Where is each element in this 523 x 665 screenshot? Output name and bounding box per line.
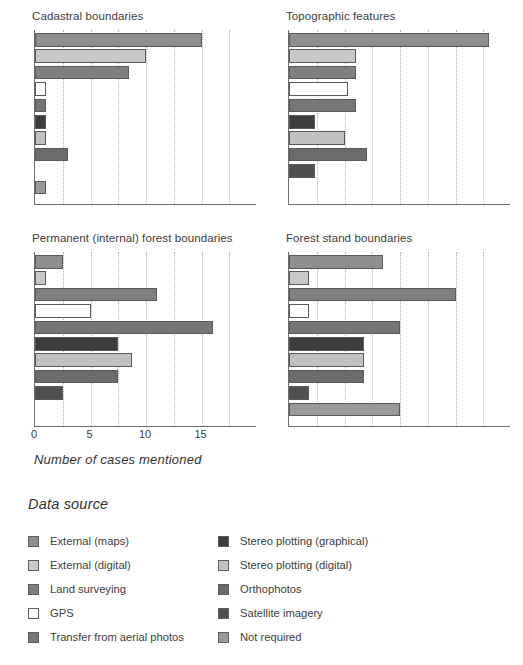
bar bbox=[35, 66, 129, 80]
plot-inner-1 bbox=[289, 30, 510, 204]
bar-group bbox=[289, 33, 510, 204]
x-tick-label: 5 bbox=[86, 428, 92, 440]
bar bbox=[289, 164, 315, 178]
bar bbox=[35, 181, 46, 195]
bar bbox=[289, 353, 364, 367]
bar bbox=[289, 115, 315, 129]
legend-swatch-icon bbox=[218, 608, 229, 619]
bar bbox=[289, 370, 364, 384]
chart-panel-grid: Cadastral boundaries Topographic feature… bbox=[0, 0, 523, 480]
bar bbox=[289, 148, 367, 162]
plot-area bbox=[288, 30, 510, 205]
legend-item-label: Orthophotos bbox=[240, 583, 302, 595]
legend-swatch-icon bbox=[218, 536, 229, 547]
legend-item[interactable]: Satellite imagery bbox=[218, 601, 448, 625]
legend-item-label: External (maps) bbox=[50, 535, 129, 547]
legend-item-label: Land surveying bbox=[50, 583, 126, 595]
legend-swatch-icon bbox=[28, 560, 39, 571]
x-tick-label: 15 bbox=[194, 428, 206, 440]
legend-swatch-icon bbox=[28, 584, 39, 595]
bar-group bbox=[289, 255, 510, 426]
legend-item-label: Satellite imagery bbox=[240, 607, 323, 619]
legend-swatch-icon bbox=[218, 560, 229, 571]
x-axis-ticks: 051015 bbox=[34, 428, 256, 444]
bar bbox=[35, 337, 118, 351]
panel-cadastral-boundaries: Cadastral boundaries bbox=[18, 10, 263, 232]
panel-title: Cadastral boundaries bbox=[32, 10, 143, 22]
panel-title: Forest stand boundaries bbox=[286, 232, 412, 244]
bar bbox=[289, 321, 400, 335]
bar bbox=[35, 321, 213, 335]
bar bbox=[289, 386, 309, 400]
bar bbox=[289, 131, 345, 145]
bar bbox=[289, 255, 383, 269]
legend-swatch-icon bbox=[28, 536, 39, 547]
panel-permanent-internal-forest-boundaries: Permanent (internal) forest boundaries 0… bbox=[18, 232, 263, 454]
panel-topographic-features: Topographic features bbox=[272, 10, 517, 232]
legend-item-label: Transfer from aerial photos bbox=[50, 631, 184, 643]
bar bbox=[289, 82, 348, 96]
legend-item-label: Stereo plotting (graphical) bbox=[240, 535, 368, 547]
bar bbox=[289, 304, 309, 318]
legend-columns: External (maps)External (digital)Land su… bbox=[28, 529, 498, 649]
x-tick-label: 0 bbox=[31, 428, 37, 440]
x-tick-label: 10 bbox=[139, 428, 151, 440]
plot-inner-3 bbox=[289, 252, 510, 426]
plot-inner-0 bbox=[35, 30, 256, 204]
bar bbox=[35, 353, 132, 367]
bar bbox=[35, 131, 46, 145]
bar bbox=[35, 49, 146, 63]
bar bbox=[35, 115, 46, 129]
x-axis-label: Number of cases mentioned bbox=[34, 452, 202, 467]
bar bbox=[289, 49, 356, 63]
legend-swatch-icon bbox=[28, 608, 39, 619]
bar bbox=[35, 386, 63, 400]
bar bbox=[35, 255, 63, 269]
legend-item-label: Stereo plotting (digital) bbox=[240, 559, 352, 571]
legend: Data source External (maps)External (dig… bbox=[28, 496, 498, 649]
bar bbox=[289, 288, 456, 302]
plot-inner-2 bbox=[35, 252, 256, 426]
bar bbox=[289, 337, 364, 351]
bar bbox=[35, 33, 202, 47]
legend-title: Data source bbox=[28, 496, 498, 512]
bar bbox=[35, 288, 157, 302]
legend-item[interactable]: Not required bbox=[218, 625, 448, 649]
legend-item[interactable]: Orthophotos bbox=[218, 577, 448, 601]
bar bbox=[35, 99, 46, 113]
panel-title: Topographic features bbox=[286, 10, 395, 22]
bar-group bbox=[35, 255, 256, 426]
bar-group bbox=[35, 33, 256, 204]
plot-area bbox=[288, 252, 510, 427]
bar bbox=[289, 66, 356, 80]
bar bbox=[289, 99, 356, 113]
plot-area bbox=[34, 252, 256, 427]
legend-item-label: External (digital) bbox=[50, 559, 131, 571]
bar bbox=[35, 271, 46, 285]
legend-swatch-icon bbox=[218, 632, 229, 643]
bar bbox=[289, 271, 309, 285]
bar bbox=[35, 370, 118, 384]
legend-item-label: Not required bbox=[240, 631, 302, 643]
plot-area bbox=[34, 30, 256, 205]
legend-item[interactable]: Stereo plotting (graphical) bbox=[218, 529, 448, 553]
legend-item-label: GPS bbox=[50, 607, 74, 619]
panel-title: Permanent (internal) forest boundaries bbox=[32, 232, 233, 244]
bar bbox=[35, 304, 91, 318]
bar bbox=[289, 403, 400, 417]
legend-swatch-icon bbox=[218, 584, 229, 595]
legend-swatch-icon bbox=[28, 632, 39, 643]
panel-forest-stand-boundaries: Forest stand boundaries bbox=[272, 232, 517, 454]
bar bbox=[289, 33, 489, 47]
legend-item[interactable]: Stereo plotting (digital) bbox=[218, 553, 448, 577]
bar bbox=[35, 148, 68, 162]
legend-column-right: Stereo plotting (graphical)Stereo plotti… bbox=[218, 529, 448, 649]
bar bbox=[35, 82, 46, 96]
